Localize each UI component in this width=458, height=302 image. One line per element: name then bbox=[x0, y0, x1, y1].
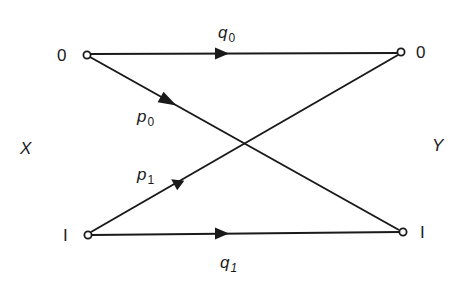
arrowhead-p0 bbox=[158, 92, 177, 106]
output-node-label-1: I bbox=[420, 224, 425, 241]
edge-label-p0: p0 bbox=[137, 108, 154, 125]
input-node-label-1: I bbox=[63, 227, 68, 244]
edge-label-q1-subscript: 1 bbox=[230, 261, 237, 275]
node-y1 bbox=[399, 228, 406, 235]
edge-label-q0-symbol: q bbox=[218, 23, 227, 42]
edge-label-p1-subscript: 1 bbox=[147, 173, 154, 187]
input-alphabet-label: X bbox=[20, 140, 31, 157]
edge-x1-y1 bbox=[92, 232, 399, 235]
node-y0 bbox=[397, 48, 404, 55]
edge-label-q0: q0 bbox=[218, 24, 235, 41]
edge-label-p0-subscript: 0 bbox=[147, 115, 154, 129]
edge-x1-y0 bbox=[91, 55, 398, 232]
edge-label-q1: q1 bbox=[220, 254, 237, 271]
edge-x0-y0 bbox=[90, 53, 397, 54]
edge-label-p1: p1 bbox=[137, 166, 154, 183]
arrowhead-q1 bbox=[215, 228, 229, 240]
node-x0 bbox=[83, 51, 90, 58]
output-alphabet-label: Y bbox=[432, 137, 443, 154]
edge-label-p1-symbol: p bbox=[137, 165, 146, 184]
edge-label-p0-symbol: p bbox=[137, 107, 146, 126]
node-x1 bbox=[84, 231, 91, 238]
edge-label-q0-subscript: 0 bbox=[228, 31, 235, 45]
edge-label-q1-symbol: q bbox=[220, 253, 229, 272]
input-node-label-0: 0 bbox=[57, 47, 66, 64]
arrowhead-q0 bbox=[215, 48, 229, 60]
output-node-label-0: 0 bbox=[416, 44, 425, 61]
